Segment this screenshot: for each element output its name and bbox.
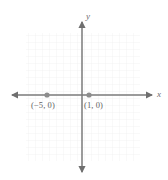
grid-area — [26, 33, 140, 161]
x-axis-label: x — [157, 90, 161, 99]
data-point — [44, 92, 49, 97]
coordinate-plane-svg — [0, 0, 168, 180]
coordinate-plane-figure: x y (−5, 0) (1, 0) — [0, 0, 168, 180]
data-point — [86, 92, 91, 97]
y-axis-label: y — [86, 12, 90, 21]
point-label: (1, 0) — [84, 101, 103, 110]
point-label: (−5, 0) — [31, 101, 55, 110]
